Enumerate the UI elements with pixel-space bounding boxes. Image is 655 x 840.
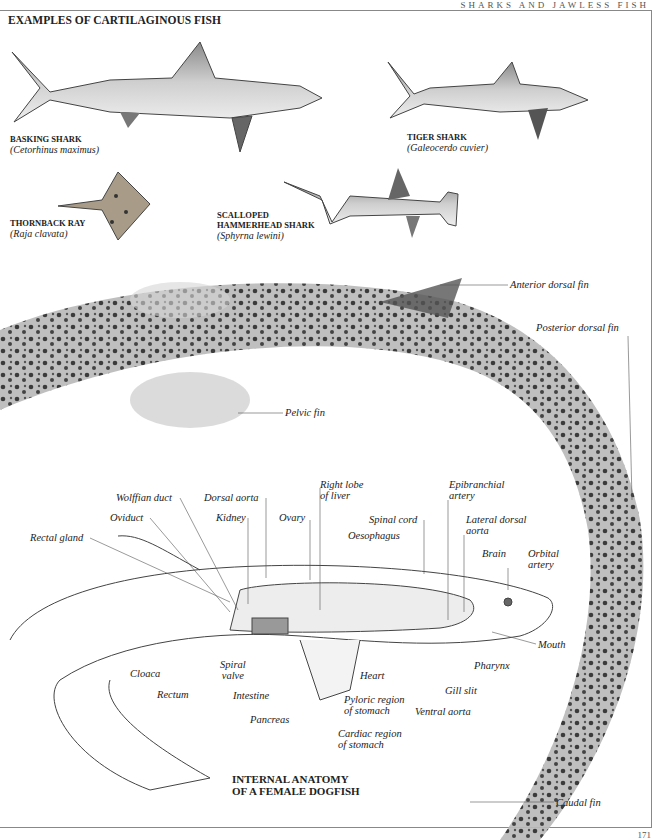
label-cloaca: Cloaca [130, 668, 160, 679]
line1: Lateral dorsal [466, 514, 526, 525]
label-lateral-dorsal-aorta: Lateral dorsalaorta [466, 514, 526, 536]
illustrations [0, 0, 655, 840]
line1: Spiral [220, 659, 246, 670]
line2: aorta [466, 525, 526, 536]
label-orbital-artery: Orbitalartery [528, 548, 559, 570]
line2: of stomach [344, 705, 405, 716]
label-pancreas: Pancreas [250, 714, 289, 725]
scientific-name: (Galeocerdo cuvier) [407, 142, 488, 154]
label-wolffian-duct: Wolffian duct [116, 492, 172, 503]
label-spiral-valve: Spiralvalve [220, 659, 246, 681]
dogfish-anatomy-drawing [10, 536, 553, 790]
anatomy-title: INTERNAL ANATOMY OF A FEMALE DOGFISH [232, 773, 360, 797]
common-name-line1: SCALLOPED [217, 210, 315, 220]
common-name: TIGER SHARK [407, 132, 488, 142]
line1: Pyloric region [344, 694, 405, 705]
page-number: 171 [638, 830, 652, 840]
line1: Epibranchial [449, 479, 504, 490]
line2: artery [528, 559, 559, 570]
line2: artery [449, 490, 504, 501]
line2: valve [220, 670, 246, 681]
label-dorsal-aorta: Dorsal aorta [204, 492, 259, 503]
label-mouth: Mouth [538, 639, 565, 650]
title-line2: OF A FEMALE DOGFISH [232, 785, 360, 797]
common-name: THORNBACK RAY [10, 218, 86, 228]
label-intestine: Intestine [233, 690, 269, 701]
tiger-shark-illustration [388, 62, 588, 140]
label-spinal-cord: Spinal cord [369, 514, 417, 525]
label-kidney: Kidney [216, 512, 246, 523]
common-name: BASKING SHARK [10, 134, 99, 144]
title-line1: INTERNAL ANATOMY [232, 773, 360, 785]
label-cardiac-region: Cardiac regionof stomach [338, 728, 402, 750]
label-ventral-aorta: Ventral aorta [415, 706, 471, 717]
line1: Orbital [528, 548, 559, 559]
caption-hammerhead: SCALLOPED HAMMERHEAD SHARK (Sphyrna lewi… [217, 210, 315, 242]
label-pharynx: Pharynx [474, 660, 510, 671]
caption-basking-shark: BASKING SHARK (Cetorhinus maximus) [10, 134, 99, 156]
label-rectal-gland: Rectal gland [30, 532, 83, 543]
label-oesophagus: Oesophagus [348, 530, 400, 541]
label-pyloric-region: Pyloric regionof stomach [344, 694, 405, 716]
label-epibranchial-artery: Epibranchialartery [449, 479, 504, 501]
line1: Right lobe [320, 479, 363, 490]
label-ovary: Ovary [279, 512, 305, 523]
label-heart: Heart [360, 670, 385, 681]
label-rectum: Rectum [157, 689, 189, 700]
label-posterior-dorsal-fin: Posterior dorsal fin [536, 322, 619, 333]
line1: Cardiac region [338, 728, 402, 739]
label-caudal-fin: Caudal fin [556, 797, 601, 808]
scientific-name: (Cetorhinus maximus) [10, 144, 99, 156]
caption-thornback-ray: THORNBACK RAY (Raja clavata) [10, 218, 86, 240]
label-gill-slit: Gill slit [445, 685, 477, 696]
common-name-line2: HAMMERHEAD SHARK [217, 220, 315, 230]
label-brain: Brain [482, 548, 506, 559]
label-anterior-dorsal-fin: Anterior dorsal fin [510, 279, 589, 290]
line2: of liver [320, 490, 363, 501]
label-oviduct: Oviduct [110, 512, 143, 523]
scientific-name: (Sphyrna lewini) [217, 230, 315, 242]
label-pelvic-fin: Pelvic fin [285, 407, 325, 418]
caption-tiger-shark: TIGER SHARK (Galeocerdo cuvier) [407, 132, 488, 154]
line2: of stomach [338, 739, 402, 750]
label-right-lobe-liver: Right lobeof liver [320, 479, 363, 501]
scientific-name: (Raja clavata) [10, 228, 86, 240]
